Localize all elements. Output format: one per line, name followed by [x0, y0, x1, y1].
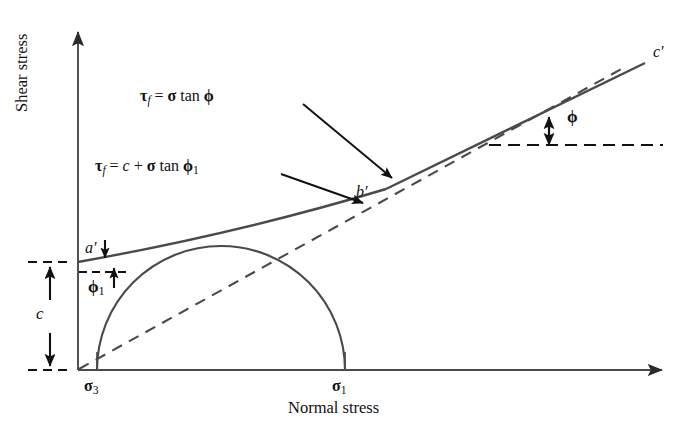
point-label-b-prime: b′ — [356, 184, 368, 200]
mohr-coulomb-diagram: Shear stress Normal stress τf = σ tan ϕ … — [0, 0, 695, 433]
x-axis-title: Normal stress — [288, 400, 379, 417]
b-letter: b — [356, 183, 364, 200]
diagram-canvas — [0, 0, 695, 433]
angle-label-phi1: ϕ1 — [88, 278, 105, 298]
prime-mark: ′ — [660, 43, 664, 60]
sigma-subscript: 3 — [93, 384, 99, 396]
tick-label-sigma1: σ1 — [332, 378, 346, 397]
c-symbol: c — [123, 157, 130, 174]
leader-arrow-lower-equation — [281, 174, 363, 203]
phi-symbol: ϕ — [183, 157, 193, 174]
plus-sign: + — [134, 157, 143, 174]
equals-sign: = — [155, 87, 164, 104]
equation-upper-label: τf = σ tan ϕ — [140, 88, 214, 107]
point-label-c-prime: c′ — [653, 44, 664, 60]
a-letter: a — [85, 239, 93, 256]
tau-subscript: f — [147, 94, 150, 106]
prime-mark: ′ — [93, 239, 97, 256]
cohesion-label: c — [36, 305, 44, 322]
envelope-segment-ab — [78, 189, 386, 262]
phi-subscript: 1 — [99, 284, 105, 298]
sigma-symbol: σ — [332, 377, 341, 394]
angle-label-phi: ϕ — [567, 108, 578, 125]
sigma-subscript: 1 — [341, 384, 347, 396]
tan-text: tan — [159, 157, 179, 174]
sigma-symbol: σ — [168, 87, 177, 104]
axes-group — [78, 32, 662, 370]
leader-arrow-upper-equation — [303, 104, 392, 178]
equals-sign: = — [110, 157, 119, 174]
y-axis-title: Shear stress — [14, 34, 31, 112]
phi-symbol: ϕ — [204, 87, 214, 104]
phi-symbol: ϕ — [88, 277, 99, 296]
envelope-segment-bc — [386, 63, 645, 189]
tick-label-sigma3: σ3 — [84, 378, 98, 397]
tan-text: tan — [180, 87, 200, 104]
point-label-a-prime: a′ — [85, 240, 97, 256]
sigma-symbol: σ — [84, 377, 93, 394]
tau-subscript: f — [102, 164, 105, 176]
prime-mark: ′ — [364, 183, 368, 200]
sigma-symbol: σ — [147, 157, 156, 174]
cohesion-indicator — [28, 262, 72, 370]
phi-subscript: 1 — [193, 164, 199, 176]
phi-symbol: ϕ — [567, 107, 578, 126]
equation-lower-label: τf = c + σ tan ϕ1 — [95, 158, 199, 177]
mohr-circle — [97, 246, 345, 370]
